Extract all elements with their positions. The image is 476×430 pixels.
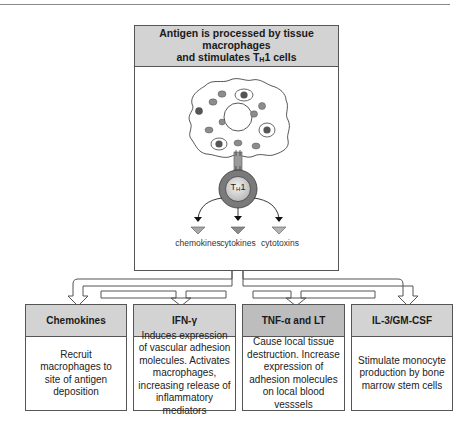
effect-header: IL-3/GM-CSF xyxy=(352,305,452,337)
arrowheads xyxy=(194,216,283,222)
secretion-triangles xyxy=(191,227,286,234)
effect-box-il3-gm-csf: IL-3/GM-CSF Stimulate monocyte productio… xyxy=(351,304,453,411)
macrophage-icon xyxy=(189,79,289,158)
effect-box-tnf-alpha-lt: TNF-α and LT Cause local tissue destruct… xyxy=(242,304,345,411)
effect-box-ifn-gamma: IFN-γ Induces expression of vascular adh… xyxy=(133,304,236,411)
branch-connector xyxy=(68,271,418,306)
effect-header: TNF-α and LT xyxy=(243,305,344,337)
effect-header: Chemokines xyxy=(26,305,126,337)
mhc-tcr-connector-icon xyxy=(234,150,242,172)
secretion-label-cytotoxins: cytotoxins xyxy=(250,238,310,248)
effect-description: Cause local tissue destruction. Increase… xyxy=(243,337,344,410)
effect-description: Recruit macrophages to site of antigen d… xyxy=(26,337,126,410)
effect-box-chemokines: Chemokines Recruit macrophages to site o… xyxy=(25,304,127,411)
effect-description: Stimulate monocyte production by bone ma… xyxy=(352,337,452,410)
effect-description: Induces expression of vascular adhesion … xyxy=(134,337,235,410)
th1-label: TH1 xyxy=(226,182,250,192)
